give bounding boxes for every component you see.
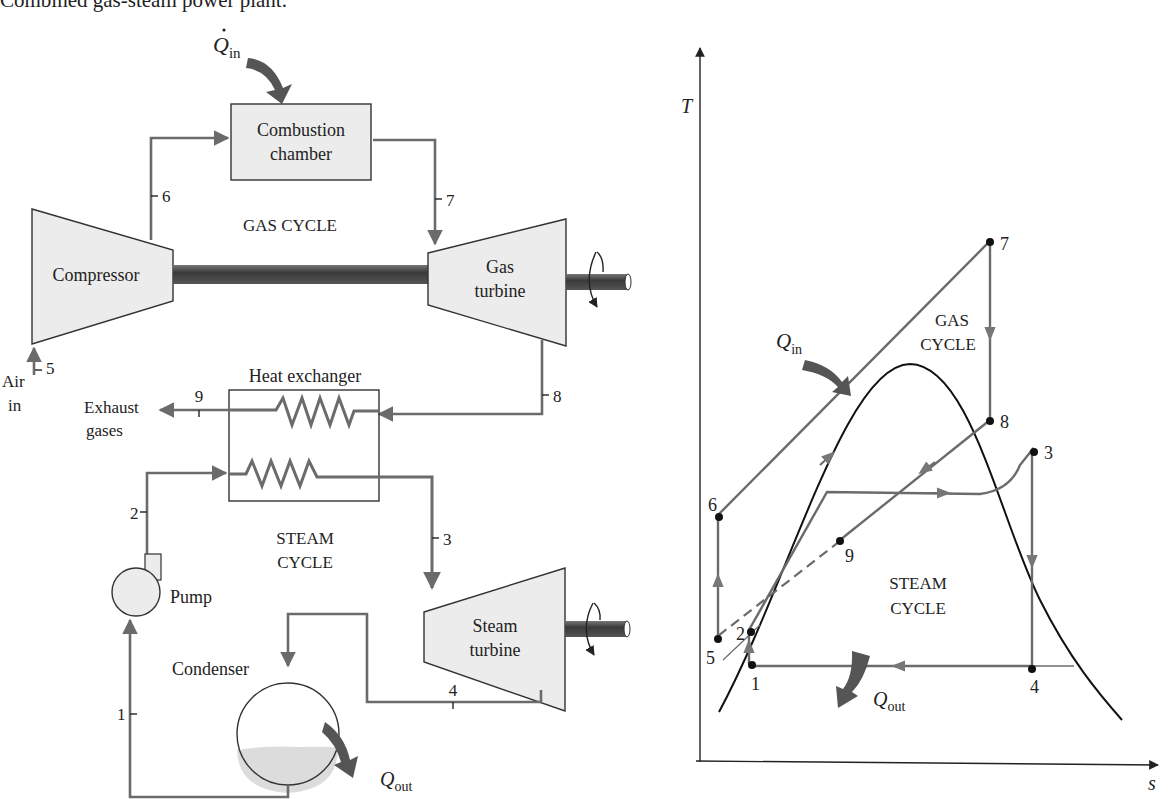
point-6-label: 6 (708, 495, 717, 515)
s-axis-label: s (1148, 772, 1156, 794)
point-4-label: 4 (1030, 677, 1039, 697)
s-axis (696, 761, 1158, 765)
heat-exchanger-label: Heat exchanger (249, 366, 361, 386)
combustion-chamber (231, 104, 371, 180)
q-out-label: Qout (380, 768, 412, 794)
exhaust-label-1: Exhaust (84, 398, 139, 417)
plant-schematic: Qin Combustion chamber 6 7 GAS CYCLE Com… (2, 28, 631, 797)
ts-steam-cycle-label-2: CYCLE (890, 599, 946, 618)
gas-shaft (173, 265, 428, 284)
hx-gas-coil-icon (229, 398, 379, 425)
state-3-label: 3 (443, 530, 452, 549)
ts-q-out-label: Qout (873, 688, 905, 714)
pump (112, 568, 160, 616)
state-7-label: 7 (446, 191, 455, 210)
condenser-label: Condenser (172, 659, 249, 679)
compressor-label: Compressor (53, 265, 140, 285)
steam-turbine-shaft (565, 621, 627, 637)
t-axis-label: T (681, 95, 694, 117)
point-2-label: 2 (736, 624, 745, 644)
gas-cooling-8-9 (840, 420, 990, 540)
gas-turbine-label-2: turbine (475, 281, 526, 301)
state-5-label: 5 (46, 359, 55, 378)
steam-cycle-path (749, 450, 1032, 666)
flow-line-2 (147, 473, 226, 554)
gas-cycle-path (718, 241, 990, 636)
ts-heat-out-arrow-icon (836, 651, 870, 708)
flow-line-8 (379, 340, 542, 414)
steam-turbine-label-1: Steam (473, 616, 518, 636)
gas-turbine-shaft (566, 274, 628, 290)
combustion-label-2: chamber (270, 144, 332, 164)
flow-line-7 (373, 140, 435, 244)
state-9-label: 9 (195, 387, 204, 406)
combustion-label-1: Combustion (257, 120, 345, 140)
point-5-label: 5 (706, 648, 715, 668)
point-1-label: 1 (751, 674, 760, 694)
state-1-label: 1 (117, 705, 126, 724)
ts-heat-in-arrow-icon (802, 360, 851, 396)
ts-steam-cycle-label-1: STEAM (889, 574, 947, 593)
exhaust-dashed-9-5 (718, 541, 840, 636)
ts-gas-cycle-label-1: GAS (935, 311, 969, 330)
ts-q-in-label: Qin (776, 329, 802, 357)
state-2-label: 2 (130, 504, 139, 523)
gas-cycle-label: GAS CYCLE (243, 216, 337, 235)
state-6-label: 6 (162, 187, 171, 206)
steam-cycle-label-2: CYCLE (277, 553, 333, 572)
point-8-label: 8 (1000, 412, 1009, 432)
steam-cycle-label-1: STEAM (276, 529, 334, 548)
ts-diagram: T s 7 8 3 6 9 2 5 1 (681, 48, 1158, 794)
point-3-label: 3 (1044, 443, 1053, 463)
air-in-label-2: in (8, 396, 22, 415)
state-8-label: 8 (553, 387, 562, 406)
heat-in-arrow-icon (246, 58, 292, 104)
point-7-label: 7 (1000, 234, 1009, 254)
ts-gas-cycle-label-2: CYCLE (920, 335, 976, 354)
air-in-label-1: Air (2, 372, 25, 391)
gas-turbine-label-1: Gas (486, 257, 514, 277)
state-4-label: 4 (449, 681, 458, 700)
steam-turbine-label-2: turbine (470, 640, 521, 660)
q-in-label: Qin (213, 32, 241, 61)
pump-label: Pump (170, 587, 212, 607)
exhaust-label-2: gases (86, 421, 123, 440)
point-9-label: 9 (845, 546, 854, 566)
